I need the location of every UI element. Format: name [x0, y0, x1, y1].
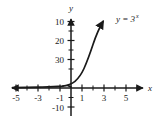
exponential-graph-svg: -5 -3 -1 1 3 5 30 20 10 -10 x y y = 3 x: [0, 0, 158, 122]
y-axis-label: y: [68, 3, 73, 13]
x-tick-label-neg3: -3: [34, 93, 42, 103]
curve-function-exponent: x: [135, 13, 139, 19]
y-tick-label-30: 30: [55, 55, 65, 65]
graph-figure: -5 -3 -1 1 3 5 30 20 10 -10 x y y = 3 x: [0, 0, 158, 122]
y-tick-label-20: 20: [55, 36, 65, 46]
x-tick-label-neg5: -5: [12, 93, 20, 103]
curve-function-label: y = 3: [115, 14, 136, 24]
x-tick-label-5: 5: [124, 93, 129, 103]
x-tick-label-3: 3: [102, 93, 107, 103]
y-tick-label-10: 10: [55, 17, 65, 27]
x-tick-label-neg1: -1: [56, 93, 64, 103]
y-tick-label-neg10: -10: [52, 103, 64, 113]
x-axis-label: x: [147, 83, 152, 93]
x-tick-label-1: 1: [80, 93, 85, 103]
